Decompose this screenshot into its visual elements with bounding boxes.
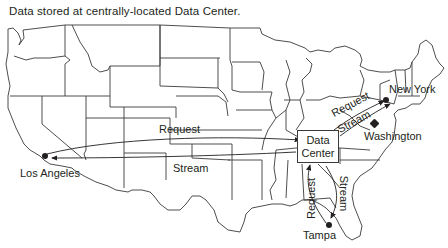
tampa-stream-label: Stream: [338, 176, 349, 211]
la-stream-label: Stream: [173, 163, 208, 174]
data-center-box: Data Center: [297, 130, 339, 163]
tampa-marker: [326, 222, 332, 228]
data-center-label-line2: Center: [298, 147, 338, 160]
la-request-label: Request: [159, 124, 200, 135]
los-angeles-marker: [42, 153, 48, 159]
us-map: [0, 0, 448, 248]
new-york-label: New York: [389, 84, 435, 95]
tampa-label: Tampa: [303, 230, 336, 241]
tampa-request-label: Request: [306, 178, 317, 219]
washington-label: Washington: [364, 131, 422, 142]
la-stream-arrow: [52, 152, 296, 158]
data-center-label-line1: Data: [298, 134, 338, 147]
los-angeles-label: Los Angeles: [20, 168, 80, 179]
new-york-marker: [383, 97, 389, 103]
